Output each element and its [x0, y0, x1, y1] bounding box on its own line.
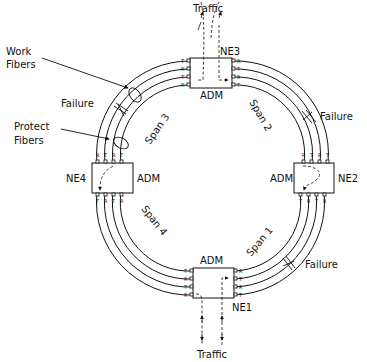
- span-4-label: Span 4: [139, 203, 169, 237]
- svg-text:R: R: [239, 284, 243, 290]
- bidirectional-ring-diagram: NE3 ADM Traffic NE4 ADM ADM NE2: [0, 0, 367, 362]
- span-3-label: Span 3: [143, 111, 172, 146]
- svg-text:R: R: [120, 198, 124, 204]
- ne2-adm-label: ADM: [270, 173, 293, 184]
- break-icon: [114, 103, 128, 116]
- svg-text:R: R: [184, 292, 188, 298]
- svg-text:R: R: [323, 198, 327, 204]
- failure-label-span-3: Failure: [61, 98, 94, 109]
- svg-text:T: T: [298, 198, 303, 204]
- span-3-fibers: [97, 61, 190, 163]
- span-2-label: Span 2: [247, 98, 274, 134]
- svg-text:T: T: [119, 152, 124, 158]
- work-fibers-label-line1: Work: [6, 46, 32, 57]
- failure-label-span-2: Failure: [320, 111, 353, 122]
- svg-text:R: R: [239, 268, 243, 274]
- svg-text:R: R: [318, 152, 322, 158]
- ne3-label: NE3: [220, 46, 240, 57]
- protect-fibers-label-line1: Protect: [14, 121, 49, 132]
- traffic-label-bottom: Traffic: [196, 349, 227, 360]
- svg-text:T: T: [238, 292, 243, 298]
- failure-span-1: Failure: [283, 256, 338, 270]
- svg-text:R: R: [237, 58, 241, 64]
- span-1-fibers: [234, 192, 325, 295]
- ne1-adm-label: ADM: [200, 255, 223, 266]
- work-fibers-callout: Work Fibers: [6, 46, 144, 104]
- work-fibers-label-line2: Fibers: [6, 59, 36, 70]
- traffic-label-top: Traffic: [192, 3, 223, 14]
- svg-text:T: T: [95, 198, 100, 204]
- svg-text:R: R: [181, 82, 185, 88]
- svg-text:R: R: [184, 276, 188, 282]
- ne1-label: NE1: [232, 302, 252, 313]
- span-1-label: Span 1: [244, 225, 275, 259]
- node-ne3: NE3 ADM: [187, 2, 240, 101]
- protect-fibers-label-line2: Fibers: [14, 135, 44, 146]
- svg-text:T: T: [238, 276, 243, 282]
- svg-text:R: R: [104, 198, 108, 204]
- svg-text:T: T: [309, 152, 314, 158]
- span-2-fibers: [232, 61, 328, 163]
- svg-text:R: R: [112, 152, 116, 158]
- node-ne1: ADM NE1: [190, 255, 252, 345]
- svg-text:T: T: [325, 152, 330, 158]
- node-ne4: NE4 ADM: [66, 160, 160, 196]
- svg-text:T: T: [103, 152, 108, 158]
- ne2-label: NE2: [338, 173, 358, 184]
- ne4-adm-label: ADM: [137, 173, 160, 184]
- svg-text:R: R: [302, 152, 306, 158]
- work-fibers-ellipse: [126, 86, 143, 105]
- node-ne2: ADM NE2: [270, 160, 358, 196]
- svg-text:T: T: [314, 198, 319, 204]
- svg-text:R: R: [237, 74, 241, 80]
- ne4-label: NE4: [66, 173, 86, 184]
- svg-text:R: R: [96, 152, 100, 158]
- svg-text:T: T: [111, 198, 116, 204]
- failure-span-3: Failure: [61, 98, 128, 116]
- svg-text:R: R: [307, 198, 311, 204]
- failure-label-span-1: Failure: [305, 259, 338, 270]
- svg-text:R: R: [181, 66, 185, 72]
- ne3-adm-label: ADM: [200, 90, 223, 101]
